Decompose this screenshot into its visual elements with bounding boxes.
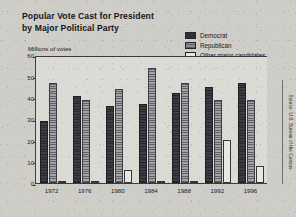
source-note: Source: U.S. Bureau of the Census — [285, 84, 295, 180]
bar-group-1984 — [135, 57, 168, 183]
bar-1992-other — [223, 140, 231, 183]
bar-1984-democrat — [139, 104, 147, 183]
plot-area: 0102030405060 — [35, 56, 267, 184]
x-tick-label-1976: 1976 — [68, 187, 101, 194]
legend-label-democrat: Democrat — [200, 32, 227, 39]
bar-group-1976 — [69, 57, 102, 183]
bar-1976-republican — [82, 100, 90, 183]
bar-1988-republican — [181, 83, 189, 183]
bar-1988-other — [190, 181, 198, 183]
bar-1980-other — [124, 170, 132, 183]
legend-swatch-democrat — [185, 32, 196, 39]
bar-1976-other — [91, 181, 99, 183]
bar-1996-republican — [247, 100, 255, 183]
source-rule — [282, 80, 283, 184]
bar-1980-republican — [115, 89, 123, 183]
bar-1980-democrat — [106, 106, 114, 183]
bar-group-1992 — [201, 57, 234, 183]
y-tick-label: 30 — [18, 117, 34, 123]
legend-swatch-republican — [185, 42, 196, 49]
bar-group-1972 — [36, 57, 69, 183]
bar-1996-other — [256, 166, 264, 183]
bar-1984-republican — [148, 68, 156, 183]
y-tick-label: 60 — [18, 53, 34, 59]
source-note-text: Source: U.S. Bureau of the Census — [288, 94, 293, 169]
x-tick-label-1980: 1980 — [101, 187, 134, 194]
x-tick-label-1972: 1972 — [35, 187, 68, 194]
chart-title-line-2: by Major Political Party — [22, 23, 182, 35]
bar-1988-democrat — [172, 93, 180, 183]
y-tick-mark — [33, 185, 36, 186]
y-tick-label: 40 — [18, 96, 34, 102]
x-tick-label-1992: 1992 — [201, 187, 234, 194]
bar-1972-republican — [49, 83, 57, 183]
chart-title: Popular Vote Cast for President by Major… — [22, 11, 182, 34]
bar-1984-other — [157, 181, 165, 183]
bar-group-1980 — [102, 57, 135, 183]
y-tick-label: 50 — [18, 75, 34, 81]
x-axis-ticks: 1972197619801984198819921996 — [35, 187, 267, 194]
bar-groups — [36, 57, 267, 183]
legend-label-republican: Republican — [200, 42, 232, 49]
legend-item-democrat: Democrat — [185, 31, 265, 40]
legend-item-republican: Republican — [185, 41, 265, 50]
x-tick-label-1996: 1996 — [234, 187, 267, 194]
bar-1996-democrat — [238, 83, 246, 183]
bar-1992-democrat — [205, 87, 213, 183]
y-tick-label: 20 — [18, 139, 34, 145]
chart-title-line-1: Popular Vote Cast for President — [22, 11, 154, 21]
bar-1992-republican — [214, 100, 222, 183]
bar-1972-democrat — [40, 121, 48, 183]
y-tick-label: 10 — [18, 160, 34, 166]
x-tick-label-1988: 1988 — [168, 187, 201, 194]
y-axis-label: Millions of votes — [28, 45, 71, 52]
bar-1972-other — [58, 181, 66, 183]
bar-group-1988 — [168, 57, 201, 183]
y-tick-label: 0 — [18, 181, 34, 187]
bar-group-1996 — [234, 57, 267, 183]
x-tick-label-1984: 1984 — [134, 187, 167, 194]
bar-1976-democrat — [73, 96, 81, 183]
